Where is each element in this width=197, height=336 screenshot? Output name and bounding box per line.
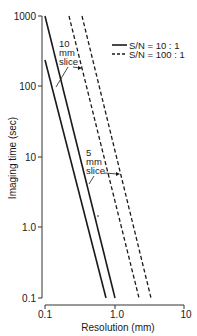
legend-dashed-label: S/N = 100 : 1 (129, 49, 185, 60)
line-sn10-10mm (45, 60, 106, 298)
svg-text:slice: slice (59, 56, 78, 67)
y-tick-1000: 1000 (14, 11, 37, 22)
y-axis-label: Imaging time (sec) (7, 117, 18, 199)
y-tick-10: 10 (25, 152, 37, 163)
svg-text:slice: slice (86, 165, 105, 176)
annotation-10mm: 10 mm slice (56, 38, 82, 87)
y-ticks (38, 16, 42, 298)
chart: 1000 100 10 1.0 0.1 Imaging time (sec) 0… (0, 0, 197, 336)
y-tick-100: 100 (19, 81, 36, 92)
y-tick-1: 1.0 (22, 222, 36, 233)
x-tick-1: 1.0 (110, 309, 124, 320)
annotation-5mm: 5 mm slice (86, 147, 120, 217)
legend: S/N = 10 : 1 S/N = 100 : 1 (112, 40, 185, 60)
y-tick-0.1: 0.1 (22, 293, 36, 304)
x-tick-0.1: 0.1 (38, 309, 52, 320)
x-tick-10: 10 (180, 309, 192, 320)
x-axis-label: Resolution (mm) (81, 322, 154, 333)
